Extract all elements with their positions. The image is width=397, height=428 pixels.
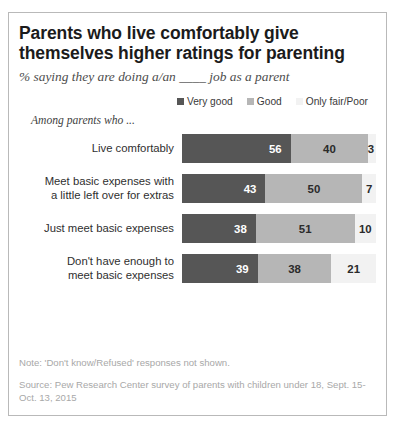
bar-segment-good: 40 (291, 134, 369, 163)
row-label: Don't have enough to meet basic expenses (19, 255, 182, 283)
bar-value-label: 50 (308, 183, 321, 195)
row-label-line: Just meet basic expenses (19, 222, 174, 236)
group-heading: Among parents who ... (31, 114, 376, 127)
row-label-line: meet basic expenses (19, 269, 174, 283)
bar-value-label: 51 (299, 223, 312, 235)
chart-footer: Note: 'Don't know/Refused' responses not… (19, 357, 376, 405)
chart-row: Just meet basic expenses 38 51 10 (19, 214, 376, 243)
row-label: Meet basic expenses with a little left o… (19, 175, 182, 203)
bar-value-label: 40 (323, 143, 336, 155)
bar-segment-very-good: 56 (182, 134, 291, 163)
chart-plot-area: Live comfortably 56 40 3 Meet basic e (19, 134, 376, 283)
legend-swatch-icon (177, 98, 184, 105)
chart-subtitle: % saying they are doing a/an ____ job as… (19, 69, 376, 85)
row-label: Live comfortably (19, 142, 182, 156)
stacked-bar: 38 51 10 (182, 214, 376, 243)
bar-value-label: 7 (366, 183, 372, 195)
bar-value-label: 3 (368, 143, 374, 155)
row-label-line: Meet basic expenses with (19, 175, 174, 189)
chart-row: Live comfortably 56 40 3 (19, 134, 376, 163)
row-label-line: Don't have enough to (19, 255, 174, 269)
chart-note: Note: 'Don't know/Refused' responses not… (19, 357, 376, 370)
bar-segment-only-fair-poor: 21 (331, 254, 376, 283)
chart-card: Parents who live comfortably give themse… (8, 12, 387, 416)
chart-content: Parents who live comfortably give themse… (9, 13, 386, 415)
legend-swatch-icon (296, 98, 303, 105)
chart-source: Source: Pew Research Center survey of pa… (19, 379, 376, 405)
row-label-line: Live comfortably (19, 142, 174, 156)
bar-segment-good: 38 (258, 254, 332, 283)
bar-value-label: 38 (288, 263, 301, 275)
bar-segment-very-good: 39 (182, 254, 258, 283)
bar-value-label: 38 (234, 223, 247, 235)
bar-value-label: 43 (244, 183, 257, 195)
row-label-line: a little left over for extras (19, 189, 174, 203)
legend-label: Good (257, 96, 282, 107)
stacked-bar: 39 38 21 (182, 254, 376, 283)
legend-item-only-fair-poor: Only fair/Poor (296, 96, 368, 107)
bar-segment-very-good: 43 (182, 174, 265, 203)
stacked-bar: 43 50 7 (182, 174, 376, 203)
row-label: Just meet basic expenses (19, 222, 182, 236)
bar-segment-only-fair-poor: 3 (368, 134, 376, 163)
legend-item-very-good: Very good (177, 96, 233, 107)
legend-item-good: Good (247, 96, 282, 107)
bar-value-label: 56 (269, 143, 282, 155)
chart-row: Meet basic expenses with a little left o… (19, 174, 376, 203)
bar-value-label: 10 (359, 223, 372, 235)
chart-row: Don't have enough to meet basic expenses… (19, 254, 376, 283)
stacked-bar: 56 40 3 (182, 134, 376, 163)
bar-value-label: 39 (236, 263, 249, 275)
bar-value-label: 21 (347, 263, 360, 275)
bar-segment-good: 50 (265, 174, 362, 203)
bar-segment-good: 51 (256, 214, 355, 243)
bar-segment-only-fair-poor: 10 (355, 214, 376, 243)
chart-legend: Very good Good Only fair/Poor (19, 96, 376, 107)
legend-label: Very good (187, 96, 233, 107)
bar-segment-only-fair-poor: 7 (362, 174, 376, 203)
legend-label: Only fair/Poor (306, 96, 368, 107)
bar-segment-very-good: 38 (182, 214, 256, 243)
chart-title: Parents who live comfortably give themse… (19, 23, 376, 64)
legend-swatch-icon (247, 98, 254, 105)
